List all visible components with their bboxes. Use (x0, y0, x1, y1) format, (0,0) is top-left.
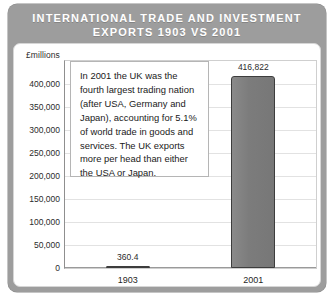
bar-value-label-2001: 416,822 (238, 62, 269, 72)
annotation-textbox: In 2001 the UK was the fourth largest tr… (70, 61, 209, 177)
y-axis-tick-label: 100,000 (12, 217, 64, 227)
bar-1903[interactable] (106, 266, 150, 269)
bar-2001[interactable] (231, 76, 275, 268)
chart-title-line-1: INTERNATIONAL TRADE AND INVESTMENT (32, 12, 301, 24)
y-axis-tick-labels: 050,000100,000150,000200,000250,000300,0… (8, 61, 64, 268)
x-axis-label-1903: 1903 (118, 275, 138, 285)
y-axis-tick-label: 400,000 (12, 79, 64, 89)
y-axis-tick-label: 150,000 (12, 194, 64, 204)
y-axis-tick-label: 300,000 (12, 125, 64, 135)
y-axis-tick-label: 50,000 (12, 240, 64, 250)
screenshot-root: INTERNATIONAL TRADE AND INVESTMENT EXPOR… (0, 0, 331, 297)
y-axis-tick-label: 200,000 (12, 171, 64, 181)
x-axis-label-2001: 2001 (243, 275, 263, 285)
y-axis-tick-label: 250,000 (12, 148, 64, 158)
chart-card: INTERNATIONAL TRADE AND INVESTMENT EXPOR… (8, 4, 326, 292)
gridline (65, 199, 316, 200)
y-axis-tick-label: 350,000 (12, 102, 64, 112)
gridline (65, 245, 316, 246)
chart-title-band: INTERNATIONAL TRADE AND INVESTMENT EXPOR… (8, 4, 326, 39)
y-axis-units-label: £millions (26, 50, 60, 60)
chart-title-line-2: EXPORTS 1903 VS 2001 (8, 25, 326, 39)
gridline (65, 222, 316, 223)
bar-value-label-1903: 360.4 (117, 252, 138, 262)
x-axis-baseline (65, 267, 316, 268)
y-axis-tick-label: 0 (12, 263, 64, 273)
